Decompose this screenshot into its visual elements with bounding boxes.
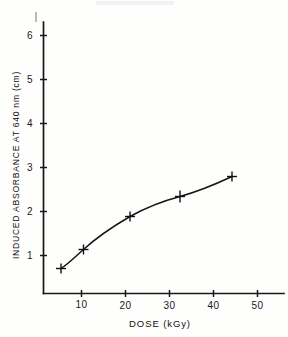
y-tick-label-2: 2 bbox=[27, 206, 33, 217]
data-point-3 bbox=[125, 212, 135, 222]
x-tick-label-40: 40 bbox=[208, 300, 220, 311]
y-tick-label-1: 1 bbox=[27, 250, 33, 261]
figure-page: 6 5 4 3 2 1 10 20 30 40 50 bbox=[0, 0, 288, 337]
data-point-5 bbox=[227, 172, 237, 182]
y-tick-label-3: 3 bbox=[27, 162, 33, 173]
x-tick-label-20: 20 bbox=[120, 300, 132, 311]
y-axis-title: INDUCED ABSORBANCE AT 640 nm (cm) bbox=[11, 71, 21, 259]
y-axis-tick-labels: 6 5 4 3 2 1 bbox=[27, 30, 33, 261]
data-point-4 bbox=[175, 191, 185, 203]
y-tick-label-4: 4 bbox=[27, 118, 33, 129]
y-tick-label-5: 5 bbox=[27, 74, 33, 85]
x-axis-title: DOSE (kGy) bbox=[129, 318, 191, 329]
absorbance-dose-chart: 6 5 4 3 2 1 10 20 30 40 50 bbox=[0, 0, 288, 337]
data-point-1 bbox=[56, 264, 66, 274]
data-curve bbox=[61, 177, 232, 269]
x-tick-label-50: 50 bbox=[252, 300, 264, 311]
x-tick-label-30: 30 bbox=[164, 300, 176, 311]
x-tick-label-10: 10 bbox=[76, 299, 88, 310]
x-axis-tick-labels: 10 20 30 40 50 bbox=[76, 299, 264, 311]
y-tick-label-6: 6 bbox=[27, 30, 33, 41]
